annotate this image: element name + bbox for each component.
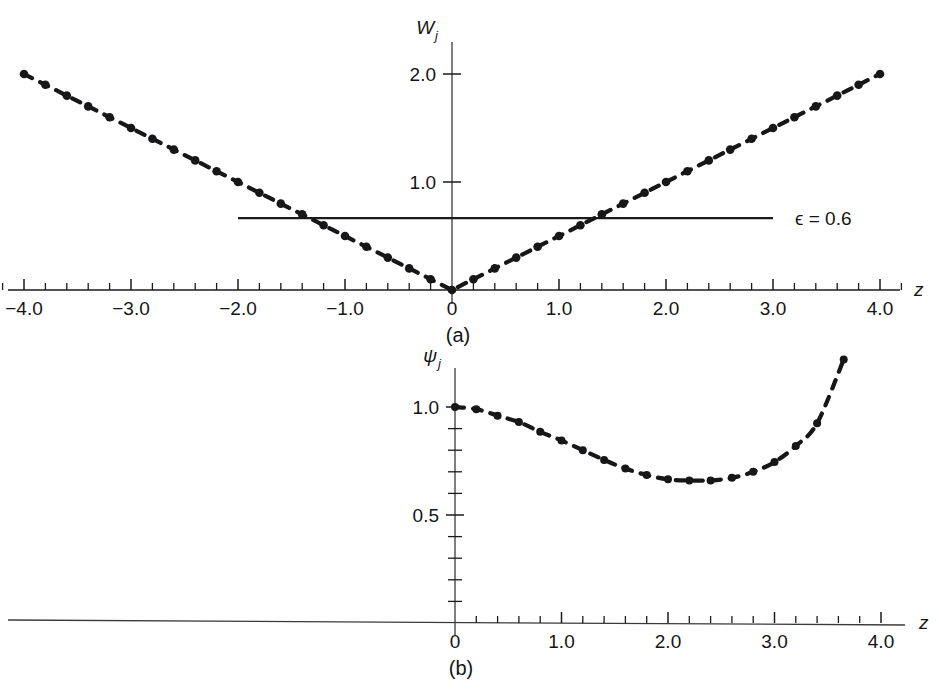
panel-b-data-point <box>771 458 779 466</box>
epsilon-annotation-label: ϵ = 0.6 <box>795 208 851 229</box>
panel-b-x-tick-label: 1.0 <box>548 631 574 652</box>
panel-a-data-point <box>362 243 371 252</box>
panel-b-data-point <box>494 412 502 420</box>
panel-b-data-point <box>472 405 480 413</box>
panel-b-data-point <box>792 442 800 450</box>
panel-b: 01.02.03.04.00.51.0ψjz(b) <box>8 345 929 679</box>
panel-b-data-point <box>840 355 848 363</box>
panel-a-data-point <box>512 253 521 262</box>
panel-a-data-point <box>384 253 393 262</box>
panel-b-x-tick-label: 4.0 <box>868 631 894 652</box>
panel-a-y-axis-label: Wj <box>416 17 439 43</box>
panel-a-data-point <box>405 264 414 273</box>
panel-a-data-point <box>662 178 671 187</box>
panel-a-data-point <box>41 81 50 90</box>
panel-a-data-point <box>747 135 756 144</box>
panel-a-data-point <box>705 156 714 165</box>
panel-a-x-tick-label: 0 <box>447 298 458 319</box>
panel-a-x-tick-label: 2.0 <box>653 298 679 319</box>
panel-a-data-point <box>426 275 435 284</box>
panel-b-data-point <box>728 474 736 482</box>
panel-a-x-tick-label: 4.0 <box>867 298 893 319</box>
panel-a-data-point <box>170 145 179 154</box>
panel-a-data-point <box>576 221 585 230</box>
panel-b-caption: (b) <box>449 657 473 679</box>
panel-a-data-point <box>683 167 692 176</box>
panel-b-data-point <box>813 419 821 427</box>
panel-a-data-point <box>833 91 842 100</box>
panel-b-curve <box>455 359 844 480</box>
panel-b-x-axis-label: z <box>918 612 929 633</box>
panel-a-x-tick-label: −2.0 <box>219 298 257 319</box>
panel-a-data-point <box>854 81 863 90</box>
panel-a-data-point <box>491 264 500 273</box>
panel-a-data-point <box>191 156 200 165</box>
panel-a-data-point <box>212 167 221 176</box>
panel-a-data-point <box>298 210 307 219</box>
panel-b-data-point <box>749 468 757 476</box>
figure-svg: −4.0−3.0−2.0−1.001.02.03.04.01.02.0Wjzϵ … <box>0 0 939 697</box>
panel-a-data-point <box>448 286 457 295</box>
panel-b-x-tick-label: 2.0 <box>655 631 681 652</box>
panel-b-data-point <box>707 476 715 484</box>
panel-b-data-point <box>579 446 587 454</box>
panel-a-data-point <box>148 135 157 144</box>
panel-a-data-point <box>234 178 243 187</box>
panel-a-data-point <box>469 275 478 284</box>
panel-a-data-point <box>726 145 735 154</box>
panel-b-y-tick-label: 1.0 <box>413 397 439 418</box>
panel-a-data-point <box>84 102 93 111</box>
panel-a-y-tick-label: 2.0 <box>410 64 436 85</box>
panel-a-caption: (a) <box>446 324 470 346</box>
panel-a-data-point <box>255 189 264 198</box>
panel-a-y-tick-label: 1.0 <box>410 172 436 193</box>
panel-a-data-point <box>127 124 136 133</box>
panel-b-data-point <box>451 403 459 411</box>
panel-a-data-point <box>876 70 885 79</box>
panel-a-data-point <box>790 113 799 122</box>
panel-b-y-axis-sublabel: j <box>436 356 442 371</box>
panel-a-x-tick-label: −3.0 <box>112 298 150 319</box>
panel-a-x-tick-label: −4.0 <box>5 298 43 319</box>
panel-b-data-point <box>643 471 651 479</box>
panel-b-data-point <box>536 428 544 436</box>
panel-b-data-point <box>558 436 566 444</box>
panel-b-x-tick-label: 3.0 <box>761 631 787 652</box>
panel-a-x-tick-label: 1.0 <box>546 298 572 319</box>
panel-a-data-point <box>63 91 72 100</box>
panel-a-data-point <box>533 243 542 252</box>
panel-b-data-point <box>515 418 523 426</box>
panel-b-y-axis-label: ψj <box>423 345 442 371</box>
panel-a-x-tick-label: 3.0 <box>760 298 786 319</box>
panel-a-y-axis-sublabel: j <box>433 28 439 43</box>
panel-a-data-point <box>277 199 286 208</box>
panel-a-data-point <box>769 124 778 133</box>
figure-root: −4.0−3.0−2.0−1.001.02.03.04.01.02.0Wjzϵ … <box>0 0 939 697</box>
panel-a: −4.0−3.0−2.0−1.001.02.03.04.01.02.0Wjzϵ … <box>3 17 924 346</box>
panel-b-data-point <box>664 475 672 483</box>
panel-a-data-point <box>341 232 350 241</box>
panel-a-data-point <box>105 113 114 122</box>
panel-a-data-point <box>619 199 628 208</box>
panel-b-data-point <box>685 476 693 484</box>
panel-a-data-point <box>555 232 564 241</box>
panel-b-data-point <box>600 456 608 464</box>
panel-a-data-point <box>20 70 29 79</box>
panel-b-y-tick-label: 0.5 <box>413 505 439 526</box>
panel-b-data-point <box>621 465 629 473</box>
panel-a-x-axis-label: z <box>913 279 924 300</box>
panel-b-x-tick-label: 0 <box>450 631 461 652</box>
panel-a-data-point <box>640 189 649 198</box>
panel-a-data-point <box>319 221 328 230</box>
panel-a-data-point <box>812 102 821 111</box>
panel-a-x-tick-label: −1.0 <box>326 298 364 319</box>
panel-b-x-axis <box>8 620 905 625</box>
panel-a-data-point <box>598 210 607 219</box>
